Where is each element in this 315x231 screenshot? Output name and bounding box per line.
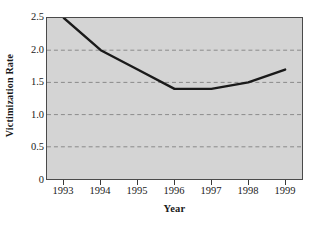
- y-axis-title-text: Victimization Rate: [5, 53, 16, 136]
- y-tick-label-1-5: 1.5: [18, 77, 44, 88]
- x-axis-title: Year: [46, 203, 303, 214]
- y-tick-label-2-5: 2.5: [18, 12, 44, 23]
- x-tick-label-1997: 1997: [201, 186, 222, 197]
- x-tick-label-1999: 1999: [275, 186, 296, 197]
- x-tick-label-1996: 1996: [164, 186, 185, 197]
- x-tick-label-1998: 1998: [238, 186, 259, 197]
- y-tick-label-0-5: 0.5: [18, 142, 44, 153]
- line-chart-figure: Victimization Rate 2.5 2.0 1.5 1.0 0.5 0: [0, 0, 315, 231]
- x-tick-label-1995: 1995: [127, 186, 148, 197]
- y-tick-label-1-0: 1.0: [18, 110, 44, 121]
- data-line-series: [47, 18, 302, 179]
- x-tick-label-1994: 1994: [90, 186, 111, 197]
- y-tick-label-0: 0: [18, 175, 44, 186]
- y-tick-label-2-0: 2.0: [18, 44, 44, 55]
- x-tick-label-1993: 1993: [53, 186, 74, 197]
- plot-area: [46, 17, 303, 180]
- y-axis-tick-labels: 2.5 2.0 1.5 1.0 0.5 0: [16, 0, 44, 231]
- victimization-rate-line: [64, 18, 285, 89]
